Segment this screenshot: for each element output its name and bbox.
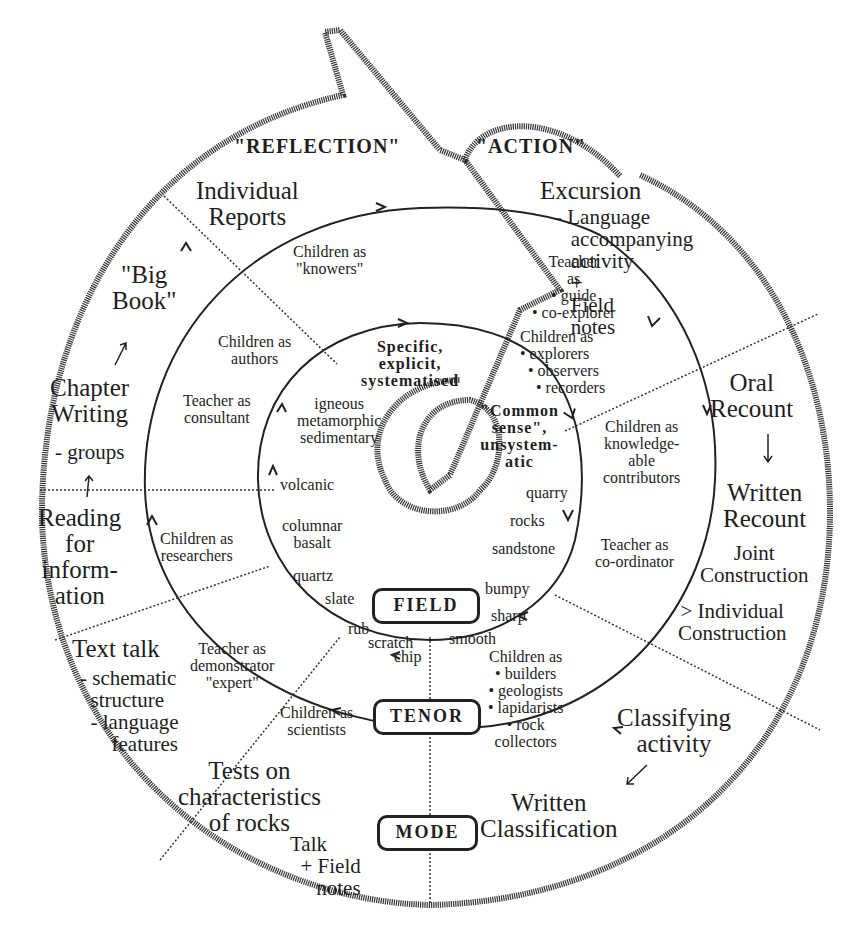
mode-box: MODE xyxy=(377,815,478,851)
text-talk-details: - schematic structure - language feature… xyxy=(80,667,179,755)
classifying-activity-label: Classifying activity xyxy=(617,705,731,757)
rocks-label: rocks xyxy=(510,512,545,529)
children-researchers-label: Children as researchers xyxy=(160,530,233,564)
reflection-header: "REFLECTION" xyxy=(234,136,400,156)
oral-recount-label: Oral Recount xyxy=(710,370,793,422)
written-classification-label: Written Classification xyxy=(480,790,617,842)
sandstone-label: sandstone xyxy=(492,540,555,557)
children-contributors-label: Children as knowledge- able contributors xyxy=(603,418,680,486)
big-book-label: "Big Book" xyxy=(112,262,176,314)
quarry-label: quarry xyxy=(526,484,568,501)
chapter-writing-groups: - groups xyxy=(55,441,124,463)
reading-for-information-label: Reading for inform- ation xyxy=(38,505,121,609)
chapter-writing-label: Chapter Writing xyxy=(50,375,129,427)
teacher-guide-label: Teacher as • guide • co-explorer xyxy=(532,253,615,321)
individual-construction-label: > Individual Construction xyxy=(678,600,787,644)
talk-field-notes-label: Talk + Field notes xyxy=(290,833,361,899)
specific-explicit-label: Specific, explicit, systematised xyxy=(361,338,459,389)
outer-hatched-spiral xyxy=(42,30,830,905)
teacher-coordinator-label: Teacher as co-ordinator xyxy=(595,536,674,570)
slate-label: slate xyxy=(325,590,354,607)
children-explorers-label: Children as • explorers • observers • re… xyxy=(520,328,605,396)
rub-label: rub xyxy=(348,620,369,637)
excursion-label: Excursion xyxy=(540,178,641,204)
teacher-demonstrator-label: Teacher as demonstrator "expert" xyxy=(190,640,274,691)
joint-construction-label: Joint Construction xyxy=(700,542,809,586)
children-knowers-label: Children as "knowers" xyxy=(293,243,366,277)
teacher-consultant-label: Teacher as consultant xyxy=(183,392,251,426)
columnar-basalt-label: columnar basalt xyxy=(282,517,342,551)
common-sense-label: "Common sense", unsystem- atic xyxy=(480,402,559,470)
rock-types-label: igneous metamorphic sedimentary xyxy=(297,395,381,446)
volcanic-label: volcanic xyxy=(280,476,334,493)
chip-label: chip xyxy=(394,648,422,665)
tenor-box: TENOR xyxy=(373,699,481,735)
field-box: FIELD xyxy=(372,588,480,624)
sharp-label: sharp xyxy=(491,607,526,624)
tests-on-rocks-label: Tests on characteristics of rocks xyxy=(178,758,321,836)
children-authors-label: Children as authors xyxy=(218,333,291,367)
children-builders-label: Children as • builders • geologists • la… xyxy=(488,648,563,750)
action-header: "ACTION" xyxy=(476,136,586,156)
bumpy-label: bumpy xyxy=(485,580,529,597)
spiral-diagram xyxy=(0,0,853,935)
quartz-label: quartz xyxy=(293,567,333,584)
individual-reports-label: Individual Reports xyxy=(196,178,299,230)
text-talk-label: Text talk xyxy=(72,636,160,662)
children-scientists-label: Children as scientists xyxy=(280,704,353,738)
smooth-label: smooth xyxy=(449,630,496,647)
written-recount-label: Written Recount xyxy=(723,480,806,532)
